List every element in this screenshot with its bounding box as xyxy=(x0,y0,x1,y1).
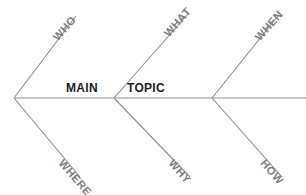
branch-line-how xyxy=(212,98,282,177)
topic-label-topic: TOPIC xyxy=(127,81,165,95)
branch-line-when xyxy=(212,16,278,98)
fishbone-lines xyxy=(0,0,306,195)
topic-label-main: MAIN xyxy=(66,81,98,95)
fishbone-diagram: WHO WHAT WHEN WHERE WHY HOW MAIN TOPIC xyxy=(0,0,306,195)
branch-line-why xyxy=(114,98,190,177)
branch-line-where xyxy=(14,98,80,177)
